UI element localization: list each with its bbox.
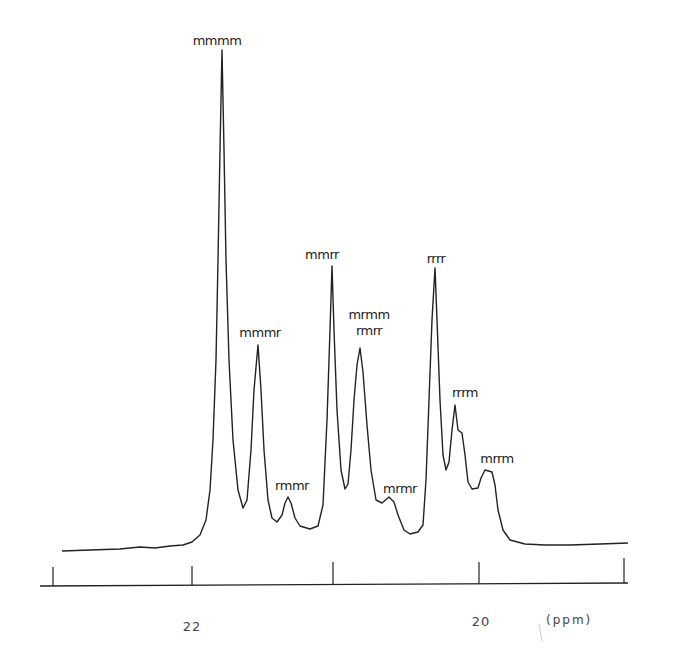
peak-label-rmrr: rmrr bbox=[356, 324, 382, 337]
x-tick-label-20: 20 bbox=[472, 614, 491, 629]
peak-label-rrrr: rrrr bbox=[427, 252, 446, 265]
peak-label-mmrr: mmrr bbox=[305, 248, 339, 261]
peak-label-mmmr: mmmr bbox=[239, 326, 280, 339]
nmr-spectrum-chart bbox=[0, 0, 674, 667]
peak-label-mmmm: mmmm bbox=[193, 34, 242, 47]
x-axis-unit-label: (ppm) bbox=[546, 613, 592, 627]
peak-label-mrrm: mrrm bbox=[480, 452, 514, 465]
peak-label-rrrm: rrrm bbox=[452, 386, 478, 399]
peak-label-mrmr: mrmr bbox=[383, 482, 417, 495]
x-axis-line bbox=[40, 583, 628, 586]
scan-artifact-mark bbox=[539, 624, 542, 641]
x-tick-label-22: 22 bbox=[183, 619, 202, 634]
peak-label-rmmr: rmmr bbox=[275, 479, 309, 492]
spectrum-trace bbox=[62, 50, 628, 551]
peak-label-mrmm: mrmm bbox=[348, 308, 389, 321]
